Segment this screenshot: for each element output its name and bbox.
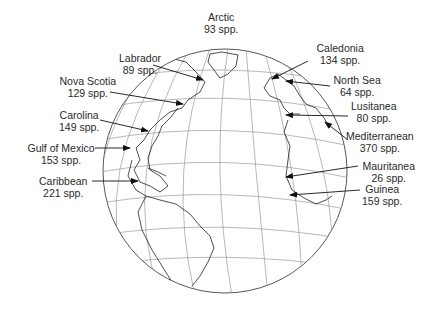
region-name: Arctic [204,11,238,23]
region-name: Gulf of Mexico [28,142,95,154]
region-name: Carolina [59,109,99,121]
species-count: 153 spp. [28,154,95,166]
species-count: 80 spp. [351,112,397,124]
region-name: Mediterranean [346,130,414,142]
region-name: Caledonia [317,42,364,54]
species-count: 64 spp. [334,86,381,98]
region-label-nova-scotia: Nova Scotia129 spp. [60,75,117,99]
region-name: Mauritanea [363,160,416,172]
species-count: 149 spp. [59,121,99,133]
region-label-lusitanea: Lusitanea80 spp. [351,100,397,124]
region-label-mauritanea: Mauritanea26 spp. [363,160,416,184]
region-label-arctic: Arctic93 spp. [204,11,238,35]
region-name: North Sea [334,74,381,86]
region-name: Caribbean [39,175,87,187]
region-label-mediterranean: Mediterranean370 spp. [346,130,414,154]
region-label-guinea: Guinea159 spp. [362,183,402,207]
region-label-north-sea: North Sea64 spp. [334,74,381,98]
region-name: Guinea [362,183,402,195]
species-count: 129 spp. [60,87,117,99]
species-count: 134 spp. [317,54,364,66]
region-label-caledonia: Caledonia134 spp. [317,42,364,66]
region-name: Labrador [119,52,161,64]
species-count: 370 spp. [346,142,414,154]
region-label-gulf-of-mexico: Gulf of Mexico153 spp. [28,142,95,166]
species-count: 89 spp. [119,64,161,76]
globe [98,48,350,296]
region-label-caribbean: Caribbean221 spp. [39,175,87,199]
species-count: 221 spp. [39,187,87,199]
region-name: Nova Scotia [60,75,117,87]
region-label-labrador: Labrador89 spp. [119,52,161,76]
region-name: Lusitanea [351,100,397,112]
species-count: 159 spp. [362,195,402,207]
species-count: 93 spp. [204,23,238,35]
region-label-carolina: Carolina149 spp. [59,109,99,133]
